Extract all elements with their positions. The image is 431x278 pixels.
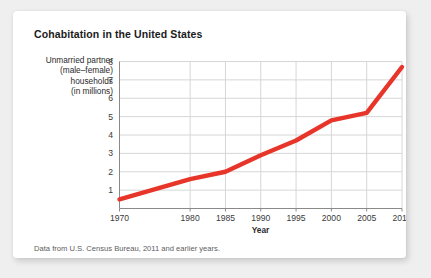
y-tick-label: 3 — [108, 148, 113, 158]
x-tick-labels: 19701980198519901995200020052010 — [110, 213, 406, 223]
x-tick-label: 1980 — [181, 213, 200, 223]
x-tick-label: 1985 — [216, 213, 235, 223]
x-tick-label: 2005 — [357, 213, 376, 223]
y-tick-label: 5 — [108, 112, 113, 122]
y-tick-labels: 12345678 — [108, 57, 113, 196]
x-tick-label: 2000 — [322, 213, 341, 223]
x-tick-label: 2010 — [392, 213, 406, 223]
x-tick-label: 1995 — [287, 213, 306, 223]
x-axis-title: Year — [119, 225, 402, 235]
y-tick-label: 6 — [108, 93, 113, 103]
x-tick-label: 1970 — [110, 213, 129, 223]
y-tick-label: 8 — [108, 57, 113, 67]
figure-card: Cohabitation in the United States Unmarr… — [13, 11, 406, 258]
y-tick-label: 4 — [108, 130, 113, 140]
source-note: Data from U.S. Census Bureau, 2011 and e… — [34, 244, 220, 253]
y-tick-label: 2 — [108, 167, 113, 177]
line-chart-plot: 12345678 1970198019851990199520002005201… — [13, 11, 406, 258]
x-tick-label: 1990 — [251, 213, 270, 223]
y-tick-label: 7 — [108, 75, 113, 85]
y-tick-label: 1 — [108, 185, 113, 195]
